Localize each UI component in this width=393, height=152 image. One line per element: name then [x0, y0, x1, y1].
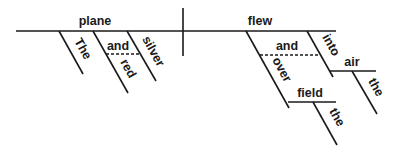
preposition-word-into: into: [319, 32, 343, 59]
object-word-air: air: [344, 55, 359, 69]
modifier-word-the-air: the: [365, 76, 386, 99]
modifier-word-the-field: the: [326, 106, 347, 129]
modifier-word-red: red: [117, 57, 139, 81]
modifier-word-silver: silver: [139, 34, 167, 69]
verb-word: flew: [248, 14, 273, 28]
subject-word: plane: [79, 14, 112, 28]
conjunction-word-verb: and: [276, 39, 298, 53]
conjunction-word-subject: and: [107, 39, 129, 53]
sentence-diagram: plane flew The red silver and over into …: [0, 0, 393, 152]
object-word-field: field: [297, 86, 323, 100]
